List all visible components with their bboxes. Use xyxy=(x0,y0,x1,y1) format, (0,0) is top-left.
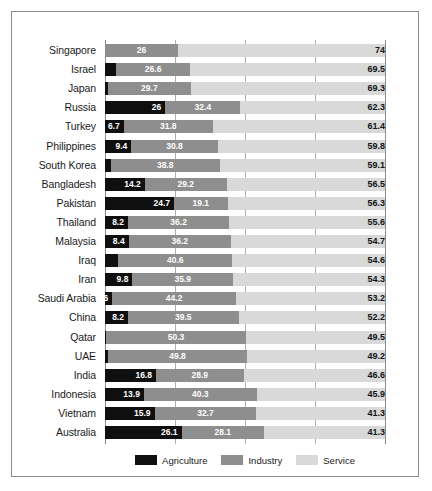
segment-value: 35.9 xyxy=(174,273,191,286)
service-value-label: 74 xyxy=(345,44,385,57)
legend-item-service[interactable]: Service xyxy=(296,455,355,466)
segment-agriculture: 9.4 xyxy=(105,140,131,153)
chart-row: Australia26.128.141.3 xyxy=(12,425,420,440)
service-value-label: 54.6 xyxy=(345,254,385,267)
segment-value: 28.9 xyxy=(192,369,209,382)
bar-track: 24.719.1 xyxy=(105,197,385,210)
chart-row: Vietnam15.932.741.3 xyxy=(12,406,420,421)
row-label-philippines: Philippines xyxy=(12,139,96,154)
legend-swatch-icon xyxy=(221,455,243,465)
service-value-label: 62.3 xyxy=(345,101,385,114)
bar-track: 49.8 xyxy=(105,350,385,363)
row-label-indonesia: Indonesia xyxy=(12,387,96,402)
row-label-malaysia: Malaysia xyxy=(12,234,96,249)
service-value-label: 61.4 xyxy=(345,120,385,133)
segment-value: 26.6 xyxy=(145,63,162,76)
service-value-label: 49.2 xyxy=(345,350,385,363)
row-label-thailand: Thailand xyxy=(12,215,96,230)
chart-row: South Korea38.859.1 xyxy=(12,158,420,173)
bar-track: 14.229.2 xyxy=(105,178,385,191)
chart-row: Russia2632.462.3 xyxy=(12,100,420,115)
chart-frame: Singapore2674Israel26.669.5Japan29.769.3… xyxy=(11,11,419,477)
segment-industry: 32.7 xyxy=(155,407,257,420)
legend-swatch-icon xyxy=(296,455,318,465)
segment-value: 8.4 xyxy=(113,235,125,248)
segment-industry: 40.3 xyxy=(144,388,257,401)
row-label-singapore: Singapore xyxy=(12,43,96,58)
bar-track: 9.835.9 xyxy=(105,273,385,286)
bar-track: 9.430.8 xyxy=(105,140,385,153)
service-value-label: 54.7 xyxy=(345,235,385,248)
chart-row: Malaysia8.436.254.7 xyxy=(12,234,420,249)
service-value-label: 41.3 xyxy=(345,426,385,439)
row-label-china: China xyxy=(12,310,96,325)
bar-track: 6.731.8 xyxy=(105,120,385,133)
bar-track: 50.3 xyxy=(105,331,385,344)
bar-track: 16.828.9 xyxy=(105,369,385,382)
row-label-qatar: Qatar xyxy=(12,330,96,345)
segment-value: 31.8 xyxy=(160,120,177,133)
segment-agriculture: 26.1 xyxy=(105,426,182,439)
row-label-turkey: Turkey xyxy=(12,119,96,134)
bar-track: 38.8 xyxy=(105,159,385,172)
row-label-australia: Australia xyxy=(12,425,96,440)
chart-row: Turkey6.731.861.4 xyxy=(12,119,420,134)
segment-industry: 39.5 xyxy=(128,311,239,324)
chart-legend: AgricultureIndustryService xyxy=(105,452,385,468)
chart-row: Indonesia13.940.345.9 xyxy=(12,387,420,402)
legend-item-agriculture[interactable]: Agriculture xyxy=(135,455,207,466)
segment-industry: 30.8 xyxy=(131,140,217,153)
chart-row: Japan29.769.3 xyxy=(12,81,420,96)
segment-value: 8.2 xyxy=(112,216,124,229)
chart-row: Singapore2674 xyxy=(12,43,420,58)
bar-track: 26 xyxy=(105,44,385,57)
segment-agriculture: 13.9 xyxy=(105,388,144,401)
segment-value: 30.8 xyxy=(166,140,183,153)
service-value-label: 52.2 xyxy=(345,311,385,324)
segment-agriculture xyxy=(105,63,116,76)
segment-industry: 28.1 xyxy=(182,426,264,439)
segment-agriculture: 26 xyxy=(105,101,165,114)
segment-value: 19.1 xyxy=(193,197,210,210)
segment-agriculture: 8.2 xyxy=(105,216,128,229)
service-value-label: 59.1 xyxy=(345,159,385,172)
segment-value: 32.4 xyxy=(195,101,212,114)
segment-industry: 38.8 xyxy=(111,159,220,172)
row-label-israel: Israel xyxy=(12,62,96,77)
service-value-label: 56.5 xyxy=(345,178,385,191)
service-value-label: 56.3 xyxy=(345,197,385,210)
segment-industry: 36.2 xyxy=(129,235,231,248)
service-value-label: 46.6 xyxy=(345,369,385,382)
row-label-uae: UAE xyxy=(12,349,96,364)
segment-value: 9.4 xyxy=(115,140,127,153)
segment-value: 26.1 xyxy=(161,426,178,439)
chart-row: Philippines9.430.859.8 xyxy=(12,139,420,154)
service-value-label: 69.5 xyxy=(345,63,385,76)
row-label-pakistan: Pakistan xyxy=(12,196,96,211)
segment-industry: 32.4 xyxy=(165,101,240,114)
segment-agriculture: 26 xyxy=(105,292,112,305)
segment-value: 44.2 xyxy=(166,292,183,305)
segment-value: 24.7 xyxy=(154,197,171,210)
bar-track: 8.239.5 xyxy=(105,311,385,324)
chart-row: Qatar50.349.5 xyxy=(12,330,420,345)
segment-value: 16.8 xyxy=(135,369,152,382)
service-value-label: 45.9 xyxy=(345,388,385,401)
segment-agriculture: 9.8 xyxy=(105,273,132,286)
chart-row: Israel26.669.5 xyxy=(12,62,420,77)
segment-value: 40.6 xyxy=(167,254,184,267)
segment-value: 26 xyxy=(152,101,161,114)
segment-industry: 26.6 xyxy=(116,63,190,76)
service-value-label: 53.2 xyxy=(345,292,385,305)
legend-item-industry[interactable]: Industry xyxy=(221,455,282,466)
row-label-south-korea: South Korea xyxy=(12,158,96,173)
segment-agriculture: 24.7 xyxy=(105,197,174,210)
segment-value: 49.8 xyxy=(169,350,186,363)
legend-label: Agriculture xyxy=(162,455,207,466)
bar-track: 15.932.7 xyxy=(105,407,385,420)
segment-industry: 50.3 xyxy=(106,331,247,344)
chart-row: Iran9.835.954.3 xyxy=(12,272,420,287)
chart-row: Bangladesh14.229.256.5 xyxy=(12,177,420,192)
segment-industry: 35.9 xyxy=(132,273,233,286)
service-value-label: 41.3 xyxy=(345,407,385,420)
